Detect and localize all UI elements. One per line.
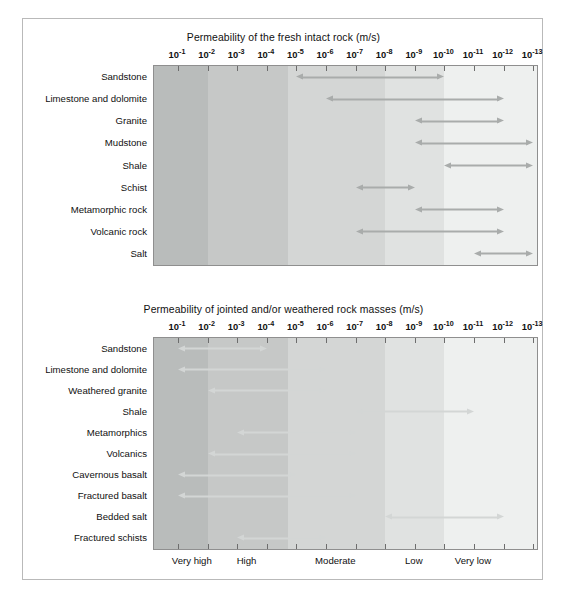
chart-panel-rock-masses: Permeability of jointed and/or weathered… <box>23 293 544 581</box>
arrow-head-right-icon <box>526 140 533 146</box>
arrow-head-right-icon <box>497 514 504 520</box>
axis-tick <box>326 338 327 343</box>
axis-tick-label: 10-6 <box>317 321 334 333</box>
row-label: Metamorphics <box>87 426 147 437</box>
axis-tick <box>237 338 238 343</box>
axis-tick <box>415 66 416 71</box>
permeability-range-arrow <box>415 140 533 147</box>
row-label: Limestone and dolomite <box>45 93 147 104</box>
axis-tick-label: 10-7 <box>346 321 363 333</box>
permeability-range-arrow <box>208 451 356 458</box>
axis-tick <box>296 66 297 71</box>
arrow-head-right-icon <box>349 451 356 457</box>
row-label: Salt <box>130 247 147 258</box>
arrow-head-left-icon <box>178 472 185 478</box>
row-label: Bedded salt <box>96 511 147 522</box>
row-label: Shale <box>122 159 147 170</box>
arrow-head-right-icon <box>349 493 356 499</box>
axis-tick <box>415 544 416 549</box>
arrow-shaft <box>361 411 469 413</box>
row-label: Schist <box>121 181 147 192</box>
axis-tick <box>208 338 209 343</box>
arrow-head-left-icon <box>178 493 185 499</box>
permeability-range-arrow <box>237 429 355 436</box>
arrow-head-left-icon <box>385 514 392 520</box>
permeability-range-arrow <box>178 493 356 500</box>
axis-tick-label: 10-13 <box>522 49 543 61</box>
arrow-head-right-icon <box>319 535 326 541</box>
arrow-head-left-icon <box>326 96 333 102</box>
arrow-head-left-icon <box>178 345 185 351</box>
arrow-shaft <box>420 209 499 211</box>
arrow-shaft <box>242 537 321 539</box>
arrow-head-left-icon <box>444 162 451 168</box>
permeability-range-arrow <box>178 472 296 479</box>
row-label: Weathered granite <box>68 384 147 395</box>
arrow-head-right-icon <box>497 96 504 102</box>
axis-tick-label: 10-9 <box>405 49 422 61</box>
axis-tick <box>415 338 416 343</box>
arrow-head-right-icon <box>497 118 504 124</box>
arrow-shaft <box>301 76 439 78</box>
axis-tick <box>474 66 475 71</box>
background-band <box>178 66 208 265</box>
axis-tick-label: 10-11 <box>463 321 483 333</box>
axis-tick <box>356 338 357 343</box>
arrow-head-right-icon <box>437 74 444 80</box>
arrow-head-left-icon <box>356 184 363 190</box>
axis-tick-label: 10-1 <box>169 49 186 61</box>
axis-tick <box>474 544 475 549</box>
permeability-class-labels: Very highHighModerateLowVery low <box>153 555 538 569</box>
row-label: Granite <box>116 115 147 126</box>
arrow-shaft <box>213 390 321 392</box>
arrow-head-right-icon <box>289 472 296 478</box>
axis-tick <box>326 544 327 549</box>
arrow-shaft <box>242 432 350 434</box>
axis-tick-label: 10-1 <box>169 321 186 333</box>
arrow-head-left-icon <box>237 535 244 541</box>
figure-container: Permeability of the fresh intact rock (m… <box>22 18 543 580</box>
axis-tick <box>208 544 209 549</box>
axis-tick-label: 10-8 <box>376 49 393 61</box>
chart-panel-intact-rock: Permeability of the fresh intact rock (m… <box>23 19 544 293</box>
axis-tick-label: 10-6 <box>317 49 334 61</box>
permeability-range-arrow <box>178 366 326 373</box>
axis-tick <box>533 66 534 71</box>
axis-tick <box>385 338 386 343</box>
axis-tick <box>504 66 505 71</box>
permeability-class-label: High <box>237 555 257 566</box>
chart-title-rock-masses: Permeability of jointed and/or weathered… <box>23 304 544 315</box>
background-band <box>154 338 178 549</box>
arrow-head-right-icon <box>349 429 356 435</box>
background-band <box>154 66 178 265</box>
axis-tick-labels-top: 10-110-210-310-410-510-610-710-810-910-1… <box>23 49 544 63</box>
axis-tick-labels-bottom: 10-110-210-310-410-510-610-710-810-910-1… <box>23 321 544 335</box>
row-label: Shale <box>122 405 147 416</box>
axis-tick-label: 10-10 <box>433 49 454 61</box>
row-label: Sandstone <box>101 71 147 82</box>
arrow-head-right-icon <box>467 408 474 414</box>
permeability-range-arrow <box>415 118 504 125</box>
axis-tick <box>444 544 445 549</box>
axis-tick <box>356 66 357 71</box>
arrow-shaft <box>420 142 528 144</box>
arrow-head-right-icon <box>319 366 326 372</box>
axis-tick-label: 10-5 <box>287 321 304 333</box>
arrow-head-right-icon <box>319 387 326 393</box>
permeability-range-arrow <box>444 162 533 169</box>
row-labels-rock-masses: SandstoneLimestone and dolomiteWeathered… <box>23 337 147 550</box>
permeability-class-label: Low <box>405 555 423 566</box>
axis-tick-label: 10-2 <box>198 49 215 61</box>
axis-tick <box>267 66 268 71</box>
arrow-shaft <box>183 474 291 476</box>
axis-tick-label: 10-5 <box>287 49 304 61</box>
axis-tick-label: 10-9 <box>405 321 422 333</box>
permeability-range-arrow <box>415 206 504 213</box>
axis-tick-label: 10-12 <box>492 321 513 333</box>
permeability-class-label: Very low <box>455 555 491 566</box>
row-label: Fractured basalt <box>78 490 147 501</box>
arrow-shaft <box>390 516 498 518</box>
arrow-head-left-icon <box>356 408 363 414</box>
axis-tick <box>504 544 505 549</box>
arrow-head-right-icon <box>260 345 267 351</box>
